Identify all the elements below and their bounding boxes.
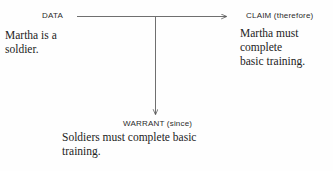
warrant-node-body: Soldiers must complete basic training. [62,130,196,158]
warrant-node-label: WARRANT (since) [123,119,192,128]
data-node-label: DATA [42,11,63,20]
data-node-body: Martha is a soldier. [5,28,57,56]
claim-node-label: CLAIM (therefore) [246,11,313,20]
toulmin-diagram: DATA Martha is a soldier. CLAIM (therefo… [0,0,333,171]
claim-node-body: Martha must complete basic training. [240,26,305,68]
